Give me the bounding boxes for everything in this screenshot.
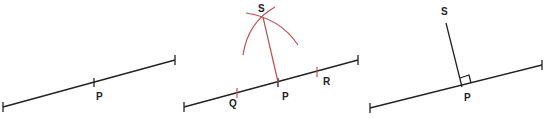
base-line xyxy=(370,65,542,108)
panel-1: P xyxy=(3,55,175,112)
label-p: P xyxy=(96,91,103,102)
label-r: R xyxy=(323,76,331,87)
segment-sp xyxy=(263,17,278,82)
perpendicular-sp xyxy=(446,23,462,87)
label-s: S xyxy=(441,6,448,17)
panel-2: S Q P R xyxy=(184,3,358,112)
label-p: P xyxy=(464,92,471,103)
label-q: Q xyxy=(229,98,237,109)
panel-3: S P xyxy=(370,6,542,113)
perpendicular-construction-diagram: P S Q P R S P xyxy=(0,0,549,118)
base-line xyxy=(3,60,175,107)
label-s: S xyxy=(258,3,265,14)
label-p: P xyxy=(282,91,289,102)
right-angle-mark xyxy=(460,75,471,83)
arc-from-q xyxy=(246,13,298,45)
base-line xyxy=(184,60,358,107)
